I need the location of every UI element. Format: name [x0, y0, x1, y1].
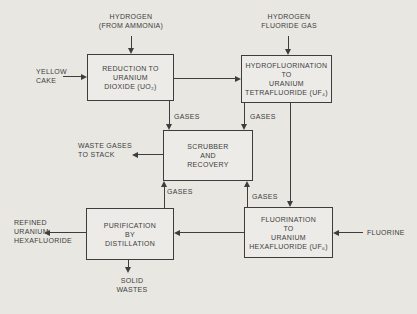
flow-line-fluorine-to-fluorination — [338, 232, 363, 233]
label-line: SOLID — [102, 276, 162, 285]
flow-line-scrubber-to-waste-gases — [137, 154, 163, 155]
box-text-line: RECOVERY — [187, 160, 229, 169]
label-line: TO STACK — [78, 150, 132, 159]
flow-line-fluorination-to-purification — [179, 232, 244, 233]
process-box-scrubber-recovery: SCRUBBER AND RECOVERY — [163, 130, 253, 181]
box-text-line: TO — [281, 70, 291, 79]
box-text-line: URANIUM — [113, 73, 148, 82]
input-label-fluorine: FLUORINE — [367, 228, 405, 237]
stream-label-gases-fluorination: GASES — [252, 192, 278, 201]
input-label-hydrogen-fluoride-gas: HYDROGEN FLUORIDE GAS — [249, 12, 329, 30]
flow-line-purification-gases-to-scrubber — [164, 186, 165, 208]
stream-label-gases-purification: GASES — [167, 187, 193, 196]
box-text-line: REDUCTION TO — [102, 64, 159, 73]
label-line: WASTES — [102, 285, 162, 294]
arrow-head-fluorination-to-purification — [174, 230, 180, 236]
flow-diagram-uranium-hexafluoride: REDUCTION TO URANIUM DIOXIDE (UO₂) HYDRO… — [0, 0, 417, 314]
box-text-line: FLUORINATION — [261, 215, 316, 224]
process-box-hydrofluorination: HYDROFLUORINATION TO URANIUM TETRAFLUORI… — [241, 55, 332, 103]
box-text-line: SCRUBBER — [187, 142, 228, 151]
box-text-line: BY — [125, 230, 135, 239]
box-text-line: HEXAFLUORIDE (UF₆) — [249, 242, 328, 251]
flow-line-reduction-to-hydrofluorination — [174, 78, 236, 79]
stream-label-gases-hydrofluorination: GASES — [250, 112, 276, 121]
box-text-line: URANIUM — [269, 79, 304, 88]
arrow-head-hfgas-to-hydrofluorination — [285, 49, 291, 55]
label-line: HYDROGEN — [249, 12, 329, 21]
arrow-head-reduction-gases-to-scrubber — [166, 124, 172, 130]
arrow-head-purification-to-solid-wastes — [125, 267, 131, 273]
input-label-hydrogen-ammonia: HYDROGEN (FROM AMMONIA) — [91, 12, 171, 30]
box-text-line: PURIFICATION — [104, 221, 156, 230]
label-line: FLUORIDE GAS — [249, 21, 329, 30]
label-line: (FROM AMMONIA) — [91, 21, 171, 30]
output-label-waste-gases: WASTE GASES TO STACK — [78, 141, 132, 159]
arrow-head-yellow-cake-to-reduction — [81, 74, 87, 80]
flow-line-hydrofluorination-gases-to-scrubber — [244, 103, 245, 125]
process-box-fluorination: FLUORINATION TO URANIUM HEXAFLUORIDE (UF… — [244, 207, 333, 258]
arrow-head-reduction-to-hydrofluorination — [235, 76, 241, 82]
flow-line-fluorination-gases-to-scrubber — [247, 186, 248, 207]
output-label-solid-wastes: SOLID WASTES — [102, 276, 162, 294]
box-text-line: URANIUM — [271, 233, 306, 242]
flow-line-reduction-gases-to-scrubber — [169, 101, 170, 125]
label-line: CAKE — [36, 76, 67, 85]
arrow-head-fluorine-to-fluorination — [333, 230, 339, 236]
arrow-head-hydrogen-to-reduction — [128, 48, 134, 54]
label-line: HYDROGEN — [91, 12, 171, 21]
flow-line-hfgas-to-hydrofluorination — [288, 36, 289, 50]
arrow-head-purification-gases-to-scrubber — [161, 181, 167, 187]
label-line: YELLOW — [36, 67, 67, 76]
arrow-head-hydrofluorination-gases-to-scrubber — [241, 124, 247, 130]
arrow-head-hydrofluorination-to-fluorination — [287, 201, 293, 207]
flow-line-yellow-cake-to-reduction — [63, 76, 82, 77]
label-line: REFINED — [14, 218, 72, 227]
label-line: HEXAFLUORIDE — [14, 236, 72, 245]
arrow-head-scrubber-to-waste-gases — [132, 152, 138, 158]
flow-line-purification-to-refined-uf6 — [49, 232, 86, 233]
box-text-line: AND — [200, 151, 216, 160]
box-text-line: HYDROFLUORINATION — [246, 61, 328, 70]
box-text-line: TO — [283, 224, 293, 233]
stream-label-gases-reduction: GASES — [174, 112, 200, 121]
process-box-purification: PURIFICATION BY DISTILLATION — [86, 208, 174, 260]
process-box-reduction: REDUCTION TO URANIUM DIOXIDE (UO₂) — [87, 54, 174, 101]
box-text-line: DISTILLATION — [105, 239, 155, 248]
box-text-line: DIOXIDE (UO₂) — [104, 82, 157, 91]
label-line: WASTE GASES — [78, 141, 132, 150]
arrow-head-fluorination-gases-to-scrubber — [244, 181, 250, 187]
box-text-line: TETRAFLUORIDE (UF₄) — [245, 88, 328, 97]
flow-line-hydrofluorination-to-fluorination — [290, 103, 291, 202]
arrow-head-purification-to-refined-uf6 — [44, 230, 50, 236]
